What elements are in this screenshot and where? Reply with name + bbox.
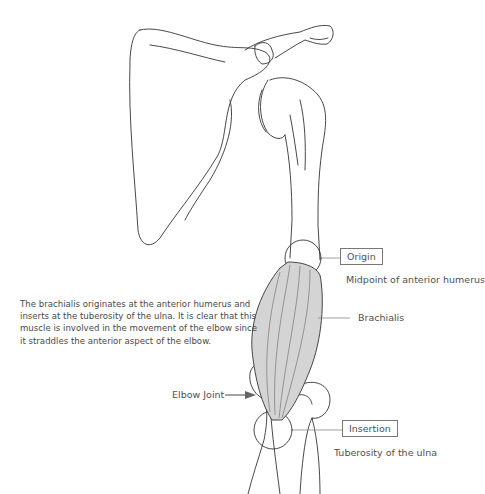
brachialis-muscle	[252, 262, 323, 420]
humerus	[270, 78, 326, 260]
scapula	[130, 29, 270, 245]
acromion	[245, 25, 333, 58]
arrow-right-icon	[225, 391, 256, 399]
description-text: The brachialis originates at the anterio…	[20, 298, 260, 347]
insertion-label: Insertion	[342, 420, 398, 437]
insertion-detail: Tuberosity of the ulna	[334, 447, 437, 458]
elbow-joint-label: Elbow Joint	[172, 389, 224, 400]
origin-detail: Midpoint of anterior humerus	[346, 274, 485, 285]
origin-label: Origin	[340, 248, 383, 265]
brachialis-label: Brachialis	[358, 312, 404, 323]
